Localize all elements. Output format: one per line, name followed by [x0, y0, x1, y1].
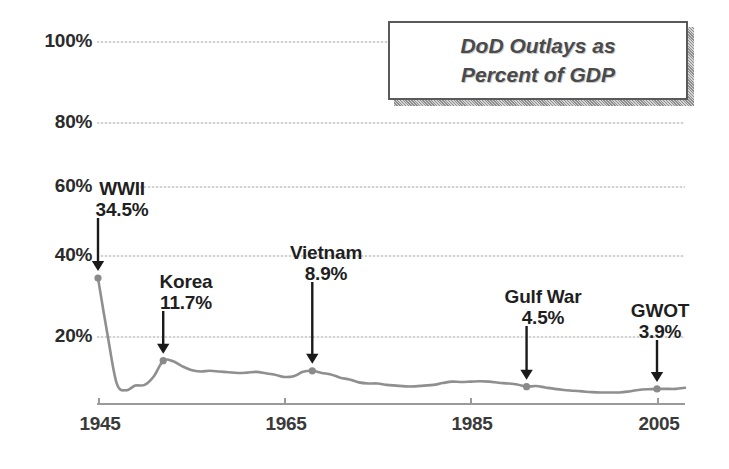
x-axis-line: [97, 403, 685, 405]
data-point-marker-vietnam: [309, 367, 316, 374]
data-point-marker-korea: [160, 357, 167, 364]
x-tick-mark-2005: [657, 398, 659, 404]
annotation-gulf-war-value: 4.5%: [505, 307, 582, 328]
annotation-gulf-war: Gulf War 4.5%: [505, 286, 582, 329]
data-series-plot: [0, 0, 729, 469]
x-tick-label-2005: 2005: [638, 413, 679, 435]
annotation-vietnam: Vietnam 8.9%: [290, 242, 362, 285]
annotation-korea: Korea 11.7%: [160, 271, 213, 314]
annotation-gwot-value: 3.9%: [631, 321, 689, 342]
annotation-wwii: WWII 34.5%: [96, 178, 149, 221]
annotation-gwot: GWOT 3.9%: [631, 300, 689, 343]
x-tick-label-1945: 1945: [79, 413, 120, 435]
x-tick-mark-1965: [284, 398, 286, 404]
annotation-arrow-head: [306, 354, 318, 364]
annotation-gulf-war-label: Gulf War: [505, 286, 582, 307]
annotation-arrow-head: [520, 370, 532, 380]
annotation-arrow-head: [92, 261, 104, 271]
annotation-arrow-head: [651, 372, 663, 382]
annotation-wwii-value: 34.5%: [96, 199, 149, 220]
x-tick-label-1965: 1965: [265, 413, 306, 435]
data-point-marker-gwot: [653, 385, 660, 392]
annotation-wwii-label: WWII: [96, 178, 149, 199]
annotation-vietnam-value: 8.9%: [290, 263, 362, 284]
x-tick-mark-1945: [98, 398, 100, 404]
annotation-arrow-head: [157, 344, 169, 354]
data-point-marker-wwii: [94, 275, 101, 282]
annotation-vietnam-label: Vietnam: [290, 242, 362, 263]
annotation-gwot-label: GWOT: [631, 300, 689, 321]
annotation-korea-value: 11.7%: [160, 292, 213, 313]
data-point-marker-gulf-war: [523, 383, 530, 390]
annotation-korea-label: Korea: [160, 271, 213, 292]
chart-canvas: 100% 80% 60% 40% 20% DoD Outlays as Perc…: [0, 0, 729, 469]
x-tick-mark-1985: [470, 398, 472, 404]
x-tick-label-1985: 1985: [451, 413, 492, 435]
